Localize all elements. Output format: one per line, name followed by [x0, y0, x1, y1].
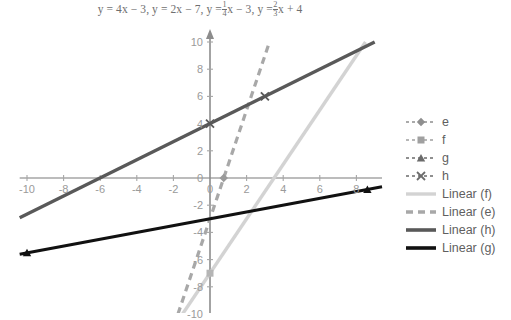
legend-label: f	[438, 134, 445, 147]
data-marker-diamond	[220, 174, 228, 182]
chart-title: y = 4x − 3, y = 2x − 7, y =14x − 3, y =2…	[0, 1, 400, 19]
legend-label: Linear (h)	[438, 224, 496, 237]
y-axis-tick-label: -2	[193, 199, 203, 211]
legend-label: g	[438, 152, 449, 165]
legend-item-marker-triangle[interactable]: g	[404, 149, 511, 167]
legend-key-marker-triangle	[404, 149, 438, 167]
x-axis-tick-label: -4	[132, 183, 142, 195]
legend-item-marker-square[interactable]: f	[404, 131, 511, 149]
legend-label: Linear (e)	[438, 206, 496, 219]
x-axis-tick-label: -2	[169, 183, 179, 195]
legend-label: e	[438, 116, 449, 129]
legend-label: h	[438, 170, 449, 183]
legend-label: Linear (g)	[438, 242, 496, 255]
legend-label: Linear (f)	[438, 188, 492, 201]
legend-item-line-f[interactable]: Linear (f)	[404, 185, 511, 203]
x-axis-tick-label: -8	[59, 183, 69, 195]
title-equation-4-prefix: y =	[257, 3, 272, 15]
legend-key-marker-cross	[404, 167, 438, 185]
y-axis-tick-label: 4	[197, 118, 203, 130]
title-equation-1: y = 4x − 3,	[98, 3, 149, 15]
legend-key-line-h	[404, 221, 438, 239]
title-equation-4-fraction: 23	[273, 1, 277, 19]
chart-legend: efghLinear (f)Linear (e)Linear (h)Linear…	[404, 113, 511, 257]
legend-item-line-g[interactable]: Linear (g)	[404, 239, 511, 257]
y-axis-tick-label: 8	[197, 63, 203, 75]
y-axis-tick-label: 10	[191, 36, 203, 48]
y-axis-tick-label: -10	[187, 308, 203, 320]
legend-key-line-e	[404, 203, 438, 221]
y-axis-tick-label: -4	[193, 226, 203, 238]
title-equation-3-suffix: x − 3,	[227, 3, 254, 15]
y-axis-tick-label: 6	[197, 90, 203, 102]
x-axis-tick-label: 2	[244, 183, 250, 195]
title-equation-2: y = 2x − 7,	[152, 3, 203, 15]
plot-area: -10-8-6-4-2024681086420-2-4-6-8-10	[0, 18, 400, 313]
legend-item-line-h[interactable]: Linear (h)	[404, 221, 511, 239]
data-marker-square	[207, 270, 214, 277]
legend-key-marker-square	[404, 131, 438, 149]
fraction-numerator: 2	[273, 1, 277, 9]
legend-item-marker-diamond[interactable]: e	[404, 113, 511, 131]
x-axis-tick-label: -10	[19, 183, 35, 195]
x-axis-tick-label: 8	[353, 183, 359, 195]
y-axis-tick-label: 0	[197, 172, 203, 184]
title-equation-4-suffix: x + 4	[278, 3, 302, 15]
y-axis-tick-label: -6	[193, 254, 203, 266]
legend-item-marker-cross[interactable]: h	[404, 167, 511, 185]
legend-key-line-g	[404, 239, 438, 257]
legend-key-marker-diamond	[404, 113, 438, 131]
x-axis-tick-label: -6	[95, 183, 105, 195]
x-axis-tick-label: 4	[280, 183, 286, 195]
title-equation-3-prefix: y =	[207, 3, 222, 15]
x-axis-tick-label: 6	[317, 183, 323, 195]
legend-key-line-f	[404, 185, 438, 203]
y-axis-tick-label: 2	[197, 145, 203, 157]
legend-item-line-e[interactable]: Linear (e)	[404, 203, 511, 221]
x-axis-tick-label: 0	[207, 183, 213, 195]
y-axis-tick-label: -8	[193, 281, 203, 293]
